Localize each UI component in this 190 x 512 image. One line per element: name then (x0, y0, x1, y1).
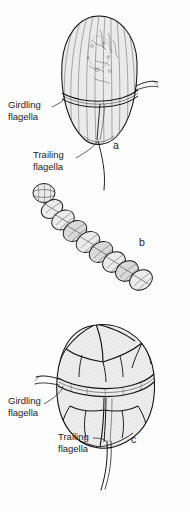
label-girdling-flagella-a-line1: Girdling (8, 99, 41, 110)
label-trailing-flagella-a-line1: Trailing (33, 149, 64, 160)
panel-letter-b: b (139, 236, 145, 248)
label-girdling-flagella-c-line2: flagella (8, 407, 39, 418)
panel-letter-a: a (113, 139, 119, 151)
dinoflagellate-illustration: Girdling flagella Trailing flagella a (0, 0, 190, 512)
label-trailing-flagella-c-line2: flagella (58, 443, 89, 454)
label-trailing-flagella-a-line2: flagella (33, 161, 64, 172)
panel-letter-c: c (131, 433, 136, 445)
label-girdling-flagella-c-line1: Girdling (8, 395, 41, 406)
label-trailing-flagella-c-line1: Trailing (58, 431, 89, 442)
label-girdling-flagella-a-line2: flagella (8, 111, 39, 122)
figure-plate: Girdling flagella Trailing flagella a (0, 0, 190, 512)
